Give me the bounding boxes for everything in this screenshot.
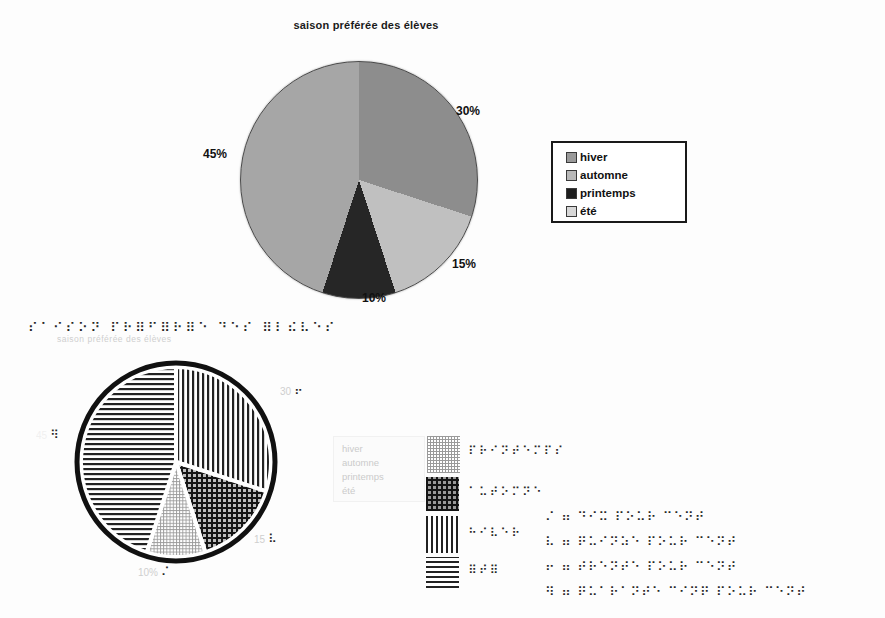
ghost-legend-item: printemps [342, 470, 416, 484]
legend-swatch-hiver [566, 152, 577, 163]
slice-label-hiver: 30% [456, 104, 480, 118]
legend-swatch-printemps [566, 188, 577, 199]
braille-mark: ⠌ [161, 565, 170, 579]
braille-mark: ⠧ [268, 532, 277, 546]
legend-label: automne [580, 169, 628, 181]
legend-item-hiver: hiver [566, 148, 685, 166]
slice-label-ete: 45% [203, 147, 227, 161]
tactile-slice-label-ete: 45 ⠻ [36, 428, 59, 442]
ghost-legend-item: hiver [342, 442, 416, 456]
tactile-pie-chart [72, 358, 280, 566]
ghost-pct: 45 [36, 430, 47, 441]
scanned-page: saison préférée des élèves 30% 45% 15% 1… [0, 0, 885, 618]
ghost-legend-item: automne [342, 456, 416, 470]
braille-chart-title: ⠎⠁⠊⠎⠕⠝ ⠏⠗⠿⠋⠿⠗⠿⠑ ⠙⠑⠎ ⠿⠇⠮⠧⠑⠎ [28, 320, 337, 335]
tactile-swatch-ete [426, 557, 459, 588]
ghost-legend-item: été [342, 484, 416, 498]
legend-label: printemps [580, 187, 636, 199]
braille-key-line-10: ⠌ ⠶ ⠙⠊⠭ ⠏⠕⠥⠗ ⠉⠑⠝⠞ [545, 504, 807, 529]
tactile-swatch-hiver [426, 516, 459, 553]
tactile-swatch-automne [426, 477, 459, 511]
braille-mark: ⠻ [50, 428, 59, 442]
legend-swatch-ete [566, 206, 577, 217]
legend-item-printemps: printemps [566, 184, 685, 202]
tactile-pie-svg [72, 358, 280, 566]
legend-label: été [580, 205, 597, 217]
braille-mark: ⠖ [294, 384, 303, 398]
print-pie-chart [240, 61, 478, 299]
legend-label: hiver [580, 151, 608, 163]
braille-key-line-30: ⠖ ⠶ ⠞⠗⠑⠝⠞⠑ ⠏⠕⠥⠗ ⠉⠑⠝⠞ [545, 554, 807, 579]
ghost-pct: 15 [254, 534, 265, 545]
ghost-print-title: saison préférée des élèves [57, 334, 172, 344]
legend-swatch-automne [566, 170, 577, 181]
tactile-slice-label-hiver: 30 ⠖ [280, 384, 303, 398]
slice-label-printemps: 10% [362, 291, 386, 305]
legend-item-ete: été [566, 202, 685, 220]
chart-title: saison préférée des élèves [246, 19, 486, 31]
ghost-pct: 10% [138, 567, 158, 578]
braille-key: ⠌ ⠶ ⠙⠊⠭ ⠏⠕⠥⠗ ⠉⠑⠝⠞ ⠧ ⠶ ⠟⠥⠊⠝⠵⠑ ⠏⠕⠥⠗ ⠉⠑⠝⠞ ⠖… [545, 504, 807, 604]
legend-item-automne: automne [566, 166, 685, 184]
braille-legend-ete: ⠿⠞⠿ [468, 563, 500, 577]
braille-legend-printemps: ⠏⠗⠊⠝⠞⠑⠍⠏⠎ [468, 444, 565, 458]
tactile-swatch-printemps [427, 436, 460, 473]
slice-label-automne: 15% [452, 257, 476, 271]
print-legend: hiver automne printemps été [551, 141, 687, 223]
braille-key-line-15: ⠧ ⠶ ⠟⠥⠊⠝⠵⠑ ⠏⠕⠥⠗ ⠉⠑⠝⠞ [545, 529, 807, 554]
ghost-pct: 30 [280, 386, 291, 397]
braille-legend-automne: ⠁⠥⠞⠕⠍⠝⠑ [468, 485, 544, 499]
braille-key-line-45: ⠻ ⠶ ⠟⠥⠁⠗⠁⠝⠞⠑ ⠉⠊⠝⠟ ⠏⠕⠥⠗ ⠉⠑⠝⠞ [545, 579, 807, 604]
braille-legend-hiver: ⠓⠊⠧⠑⠗ [468, 526, 522, 540]
tactile-slice-label-automne: 15 ⠧ [254, 532, 277, 546]
tactile-slice-label-printemps: 10% ⠌ [138, 565, 170, 579]
ghost-print-legend: hiver automne printemps été [333, 436, 425, 502]
